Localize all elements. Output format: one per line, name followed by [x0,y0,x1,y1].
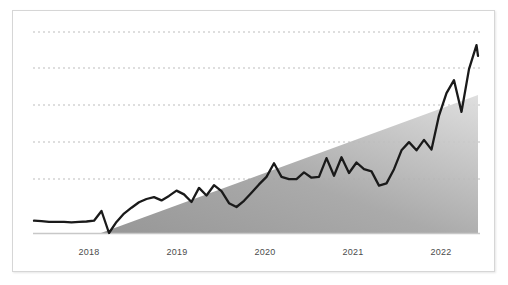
trend-area-wedge [101,95,478,233]
x-tick-label-2019: 2019 [167,247,188,257]
chart-frame: 2018 2019 2020 2021 2022 [12,10,495,272]
x-tick-label-2018: 2018 [79,247,100,257]
x-tick-label-2020: 2020 [255,247,276,257]
line-chart-plot [13,11,494,271]
x-tick-label-2021: 2021 [343,247,364,257]
chart-container: 2018 2019 2020 2021 2022 [0,0,508,285]
x-tick-label-2022: 2022 [431,247,452,257]
